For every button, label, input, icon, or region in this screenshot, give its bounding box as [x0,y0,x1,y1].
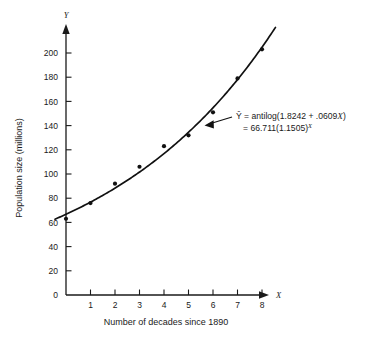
x-tick-label: 8 [260,300,265,310]
y-tick-label: 180 [44,72,58,82]
x-tick-label: 3 [137,300,142,310]
chart-figure: Y X 020406080100120140160180200 12345678… [0,0,374,345]
data-point [260,47,264,51]
data-point [235,76,239,80]
y-tick-label: 40 [49,242,59,252]
y-tick-label: 100 [44,169,58,179]
equation-line-1: Ŷ = antilog(1.8242 + .0609X) [236,111,346,121]
data-point [88,201,92,205]
x-axis-title: Number of decades since 1890 [104,317,229,327]
y-tick-label: 200 [44,48,58,58]
x-tick-label: 1 [88,300,93,310]
data-point [137,165,141,169]
x-axis-letter: X [275,290,282,300]
data-point [162,144,166,148]
x-tick-label: 5 [186,300,191,310]
y-tick-label: 20 [49,266,59,276]
x-tick-label: 7 [235,300,240,310]
data-point [113,182,117,186]
x-tick-label: 2 [113,300,118,310]
y-tick-label: 80 [49,193,59,203]
population-growth-chart: Y X 020406080100120140160180200 12345678… [0,0,374,345]
y-tick-label: 140 [44,121,58,131]
equation-line-2: = 66.711(1.1505)X [243,122,313,133]
data-point [211,110,215,114]
data-point [186,133,190,137]
data-point [64,217,68,221]
y-tick-label: 160 [44,97,58,107]
y-tick-label: 120 [44,145,58,155]
y-tick-label: 0 [53,290,58,300]
y-axis-title: Population size (millions) [14,118,24,218]
x-tick-label: 4 [162,300,167,310]
x-tick-label: 6 [211,300,216,310]
